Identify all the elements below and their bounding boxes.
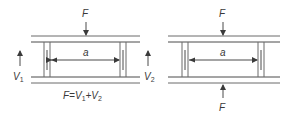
bottom-plate [31, 77, 140, 83]
force-bottom-label: F [219, 102, 226, 113]
right-post [120, 42, 126, 77]
force-top-label: F [219, 8, 226, 19]
left-post [44, 42, 50, 77]
v-subscript: 1 [20, 76, 24, 83]
dimension-arrow [189, 58, 257, 63]
top-plate [168, 36, 280, 42]
dimension-label: a [83, 47, 89, 58]
left-post [182, 42, 188, 77]
right-post [258, 42, 264, 77]
dimension-arrow [51, 58, 119, 63]
reaction-right-label: V2 [144, 71, 155, 83]
equation-lhs: F=V [63, 90, 83, 101]
equation-sub2: 2 [98, 95, 102, 102]
bottom-plate [168, 77, 280, 83]
beam-diagram: a F V1 V2 F=V1+V2 [0, 0, 294, 117]
dimension-label: a [220, 47, 226, 58]
force-top-label: F [82, 8, 89, 19]
reaction-left-label: V1 [13, 71, 24, 83]
left-diagram: a F V1 V2 F=V1+V2 [13, 8, 155, 102]
equilibrium-equation: F=V1+V2 [63, 90, 102, 102]
v-subscript: 2 [151, 76, 155, 83]
top-plate [31, 36, 140, 42]
right-diagram: a F F [168, 8, 280, 113]
